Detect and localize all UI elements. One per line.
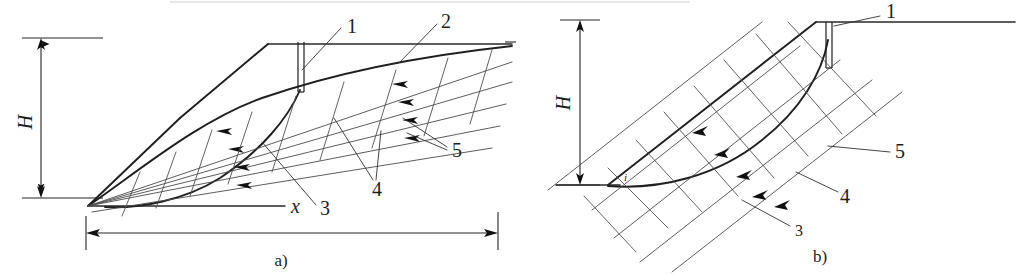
flow-arrow-a-2: [228, 146, 244, 153]
equipotential-a-5: [272, 96, 296, 172]
equipotential-b-4: [694, 86, 774, 178]
equipotential-a-4: [228, 112, 252, 184]
flow-arrow-b-5: [774, 200, 790, 210]
callout-b-5: 5: [895, 140, 905, 162]
panel-b: 1 3 4 5 H i b): [505, 0, 1015, 272]
equipotential-a-3: [190, 130, 212, 196]
leader-b-5: [828, 146, 890, 152]
equipotential-a-8: [424, 58, 448, 136]
leader-a-4b: [376, 131, 381, 180]
equipotential-a-9: [470, 50, 492, 124]
callout-leaders-b: [742, 16, 890, 226]
figure-root: 1 2 3 4 5 H x a): [0, 0, 1022, 275]
flow-line-a-3: [88, 104, 506, 206]
callout-a-3: 3: [320, 197, 330, 219]
flow-arrows-a: [216, 81, 420, 189]
flow-line-b-3: [640, 80, 872, 262]
callout-a-4: 4: [372, 178, 382, 200]
caption-b: b): [813, 247, 827, 266]
flow-arrow-a-5: [392, 81, 408, 88]
seepage-boundary-a: [105, 90, 300, 207]
leader-a-1: [302, 28, 341, 70]
angle-label-i-b: i: [624, 171, 627, 183]
flow-arrow-a-1: [216, 128, 232, 135]
flow-line-a-4: [88, 126, 500, 206]
flow-lines-b: [548, 22, 902, 272]
callout-b-3: 3: [795, 222, 803, 239]
leader-a-3: [262, 142, 316, 205]
flow-arrows-b: [692, 126, 790, 210]
height-label-b: H: [552, 94, 574, 111]
equipotential-b-6: [756, 34, 842, 134]
phreatic-surface-a: [88, 46, 512, 206]
flow-lines-a: [88, 62, 512, 212]
width-dimension-a: [86, 212, 498, 250]
flow-line-b-1: [592, 46, 800, 210]
equipotential-a-7: [372, 70, 396, 148]
leader-b-4: [796, 172, 838, 192]
slope-face-upper-a: [180, 44, 268, 118]
equipotential-a-6: [320, 82, 344, 160]
equipotential-lines-a: [122, 50, 492, 216]
flow-arrow-b-3: [736, 170, 752, 180]
flow-line-b-2: [614, 60, 840, 238]
flow-arrow-a-8: [404, 135, 420, 142]
callout-b-1: 1: [886, 0, 896, 22]
callout-a-2: 2: [441, 10, 451, 32]
callout-a-1: 1: [347, 15, 357, 37]
callout-b-4: 4: [840, 185, 850, 207]
leader-a-5b: [407, 133, 447, 150]
callout-a-5: 5: [452, 139, 462, 161]
diagram-canvas: 1 2 3 4 5 H x a): [0, 0, 1022, 275]
flow-arrow-b-2: [714, 148, 730, 158]
height-label-a: H: [14, 113, 36, 130]
axis-label-x-a: x: [290, 195, 300, 217]
panel-a: 1 2 3 4 5 H x a): [14, 10, 512, 270]
leader-b-1: [834, 16, 880, 26]
flow-arrow-b-1: [692, 126, 708, 136]
flow-line-a-1: [88, 62, 512, 206]
leader-a-4a: [334, 118, 373, 180]
caption-a: a): [274, 251, 287, 270]
flow-line-b-4: [672, 92, 902, 272]
equipotential-b-8: [584, 196, 636, 252]
leader-a-5a: [403, 118, 447, 147]
